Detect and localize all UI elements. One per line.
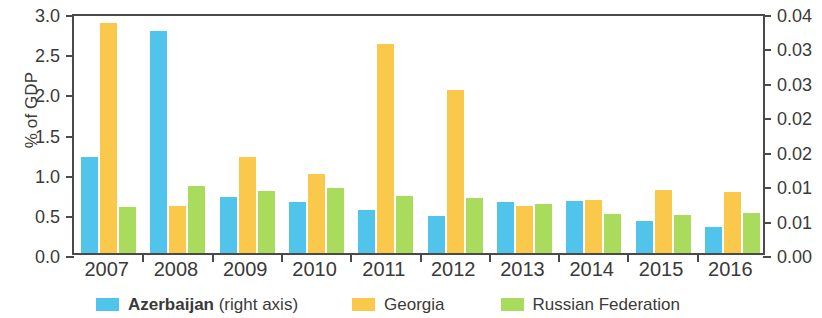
bar-group-2009 [213, 16, 282, 253]
bar-georgia-2007 [100, 23, 117, 253]
bar-georgia-2015 [655, 190, 672, 253]
y-axis-left-tick-label: 1.0 [35, 168, 60, 186]
y-axis-right-tick-label: 0.04 [777, 7, 812, 25]
bar-group-2010 [282, 16, 351, 253]
bar-group-2007 [74, 16, 143, 253]
bar-azerbaijan-2013 [497, 202, 514, 253]
y-axis-left-tick [66, 15, 74, 17]
y-axis-right-tick-label: 0.03 [777, 41, 812, 59]
legend-series-name: Azerbaijan [128, 295, 214, 314]
bar-russian-federation-2012 [466, 198, 483, 253]
bar-group-2013 [490, 16, 559, 253]
legend-label-russian-federation: Russian Federation [533, 296, 680, 313]
x-axis-label-2012: 2012 [419, 258, 488, 281]
legend-series-name: Georgia [384, 295, 444, 314]
bar-group-2014 [559, 16, 628, 253]
y-axis-left-tick [66, 136, 74, 138]
bar-azerbaijan-2007 [81, 157, 98, 253]
bar-azerbaijan-2012 [428, 216, 445, 253]
bar-russian-federation-2016 [743, 213, 760, 253]
bar-russian-federation-2007 [119, 207, 136, 253]
x-axis-label-2014: 2014 [557, 258, 626, 281]
bar-russian-federation-2015 [674, 215, 691, 253]
bar-georgia-2011 [377, 44, 394, 253]
bar-russian-federation-2009 [258, 191, 275, 253]
y-axis-left-tick-label: 2.0 [35, 87, 60, 105]
bar-azerbaijan-2010 [289, 202, 306, 253]
x-axis-label-2008: 2008 [141, 258, 210, 281]
x-axis-labels: 2007200820092010201120122013201420152016 [72, 258, 765, 288]
chart-legend: Azerbaijan (right axis)GeorgiaRussian Fe… [72, 292, 765, 316]
bar-group-2011 [351, 16, 420, 253]
bar-azerbaijan-2011 [358, 210, 375, 253]
bar-azerbaijan-2014 [566, 201, 583, 253]
y-axis-left-tick [66, 216, 74, 218]
bar-group-2012 [421, 16, 490, 253]
y-axis-right-tick-label: 0.02 [777, 110, 812, 128]
legend-swatch-russian-federation [501, 298, 524, 311]
bar-group-2016 [698, 16, 767, 253]
bar-georgia-2009 [239, 157, 256, 253]
y-axis-left-tick-label: 2.5 [35, 47, 60, 65]
legend-item-azerbaijan[interactable]: Azerbaijan (right axis) [96, 296, 298, 313]
plot-area: 0.00.51.01.52.02.53.0 0.000.010.010.020.… [72, 14, 765, 255]
y-axis-right-tick-label: 0.03 [777, 76, 812, 94]
bar-group-2008 [143, 16, 212, 253]
y-axis-right-tick-label: 0.01 [777, 214, 812, 232]
legend-series-name: Russian Federation [533, 295, 680, 314]
y-axis-left-tick [66, 176, 74, 178]
x-axis-label-2016: 2016 [696, 258, 765, 281]
bar-georgia-2013 [516, 206, 533, 253]
bar-russian-federation-2014 [604, 214, 621, 253]
legend-item-georgia[interactable]: Georgia [352, 296, 444, 313]
legend-axis-note: (right axis) [214, 295, 298, 314]
legend-label-azerbaijan: Azerbaijan (right axis) [128, 296, 298, 313]
legend-item-russian-federation[interactable]: Russian Federation [501, 296, 680, 313]
y-axis-left-tick-label: 3.0 [35, 7, 60, 25]
bar-russian-federation-2010 [327, 188, 344, 253]
y-axis-right-tick-label: 0.02 [777, 145, 812, 163]
bar-russian-federation-2011 [396, 196, 413, 253]
bar-russian-federation-2013 [535, 204, 552, 253]
legend-label-georgia: Georgia [384, 296, 444, 313]
bar-azerbaijan-2015 [636, 221, 653, 253]
bar-russian-federation-2008 [188, 186, 205, 253]
bar-azerbaijan-2009 [220, 197, 237, 253]
bar-georgia-2008 [169, 206, 186, 253]
bar-georgia-2016 [724, 192, 741, 253]
bar-group-2015 [628, 16, 697, 253]
y-axis-left-tick-label: 1.5 [35, 128, 60, 146]
x-axis-label-2015: 2015 [626, 258, 695, 281]
x-axis-label-2007: 2007 [72, 258, 141, 281]
bar-georgia-2012 [447, 90, 464, 253]
y-axis-right-tick-label: 0.00 [777, 248, 812, 266]
y-axis-right-tick-label: 0.01 [777, 179, 812, 197]
bar-georgia-2014 [585, 200, 602, 253]
bar-azerbaijan-2016 [705, 227, 722, 254]
y-axis-left-tick-label: 0.0 [35, 248, 60, 266]
x-axis-label-2013: 2013 [488, 258, 557, 281]
bar-georgia-2010 [308, 174, 325, 253]
x-axis-label-2010: 2010 [280, 258, 349, 281]
legend-swatch-georgia [352, 298, 375, 311]
bar-chart: % of GDP 0.00.51.01.52.02.53.0 0.000.010… [0, 0, 822, 318]
legend-swatch-azerbaijan [96, 298, 119, 311]
y-axis-left-tick-label: 0.5 [35, 208, 60, 226]
bar-azerbaijan-2008 [150, 31, 167, 253]
y-axis-left-tick [66, 95, 74, 97]
bars-layer [74, 16, 763, 253]
x-axis-label-2011: 2011 [349, 258, 418, 281]
x-axis-label-2009: 2009 [211, 258, 280, 281]
y-axis-left-tick [66, 55, 74, 57]
